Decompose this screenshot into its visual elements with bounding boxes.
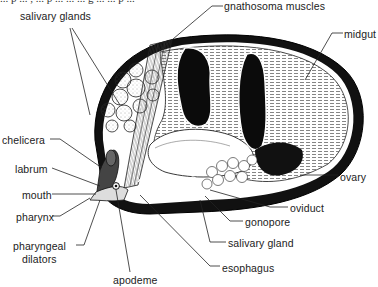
label-oviduct: oviduct bbox=[290, 202, 324, 214]
label-gnathosoma-muscles: gnathosoma muscles bbox=[224, 0, 325, 12]
label-labrum: labrum bbox=[15, 163, 48, 175]
label-gonopore: gonopore bbox=[245, 216, 290, 228]
label-chelicera: chelicera bbox=[2, 134, 45, 146]
label-apodeme: apodeme bbox=[113, 274, 157, 286]
label-pharynx: pharynx bbox=[16, 211, 54, 223]
anatomy-figure: ... p ... , ... p ... ... ... g ... ... … bbox=[0, 0, 378, 287]
label-ovary: ovary bbox=[340, 171, 366, 183]
label-salivary-gland: salivary gland bbox=[228, 237, 294, 249]
label-pharyngeal: pharyngeal bbox=[13, 240, 66, 252]
label-esophagus: esophagus bbox=[222, 262, 274, 274]
label-midgut: midgut bbox=[344, 28, 376, 40]
label-salivary-glands: salivary glands bbox=[20, 10, 91, 22]
label-dilators: dilators bbox=[22, 253, 57, 265]
label-mouth: mouth bbox=[22, 189, 52, 201]
